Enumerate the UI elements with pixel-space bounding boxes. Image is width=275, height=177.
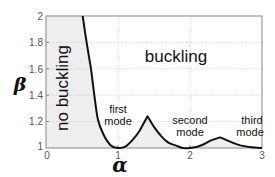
y-tick-1.2: 1.2 (29, 116, 43, 127)
x-tick-3: 3 (259, 150, 265, 161)
x-tick-2: 2 (187, 150, 193, 161)
y-tick-1.4: 1.4 (29, 90, 43, 101)
third-mode-label-line2: mode (236, 126, 264, 138)
buckling-label: buckling (145, 47, 207, 66)
second-mode-label-line2: mode (176, 126, 204, 138)
y-tick-1.8: 1.8 (29, 37, 43, 48)
first-mode-label-line2: mode (104, 115, 132, 127)
y-axis-label: β (13, 73, 27, 95)
second-mode-label-line1: second (172, 114, 207, 126)
y-tick-1.6: 1.6 (29, 64, 43, 75)
y-tick-2: 2 (37, 11, 43, 22)
y-tick-1: 1 (37, 141, 43, 152)
x-axis-label: α (112, 153, 127, 177)
no-buckling-label: no buckling (53, 45, 72, 131)
x-tick-0: 0 (44, 150, 50, 161)
first-mode-label-line1: first (109, 103, 127, 115)
third-mode-label-line1: third (241, 114, 262, 126)
chart: 2 1.8 1.6 1.4 1.2 1 0 1 2 3 α β no buckl… (0, 0, 275, 177)
